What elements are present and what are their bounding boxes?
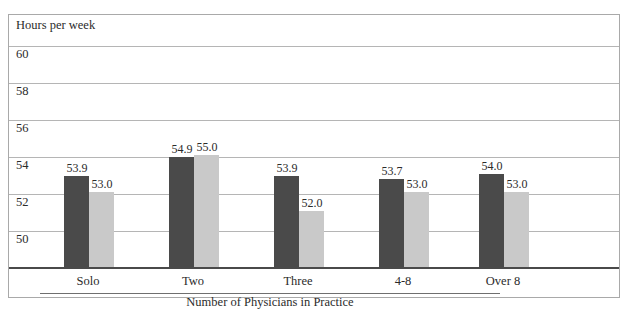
bar-solo-light[interactable]: 53.0 xyxy=(89,192,114,267)
plot-area: 53.9 53.0 54.9 55.0 53.9 52.0 53.7 xyxy=(9,15,619,297)
chart-frame: Hours per week 60 58 56 54 52 50 53.9 53… xyxy=(8,14,620,298)
bar-value-solo-light: 53.0 xyxy=(82,177,122,191)
category-label-solo: Solo xyxy=(43,274,133,289)
bar-three-light[interactable]: 52.0 xyxy=(299,211,324,267)
bar-four8-light[interactable]: 53.0 xyxy=(404,192,429,267)
bar-value-four8-dark: 53.7 xyxy=(372,164,412,178)
bar-value-over8-dark: 54.0 xyxy=(472,159,512,173)
bar-value-three-dark: 53.9 xyxy=(267,161,307,175)
bar-two-dark[interactable]: 54.9 xyxy=(169,157,194,267)
bar-four8-dark[interactable]: 53.7 xyxy=(379,179,404,267)
bar-value-two-light: 55.0 xyxy=(187,140,227,154)
category-label-over-eight: Over 8 xyxy=(458,274,548,289)
x-axis-title: Number of Physicians in Practice xyxy=(40,295,500,310)
bar-over8-light[interactable]: 53.0 xyxy=(504,192,529,267)
bar-value-four8-light: 53.0 xyxy=(397,177,437,191)
bar-value-three-light: 52.0 xyxy=(292,196,332,210)
bar-two-light[interactable]: 55.0 xyxy=(194,155,219,267)
category-label-three: Three xyxy=(253,274,343,289)
bar-value-solo-dark: 53.9 xyxy=(57,161,97,175)
category-axis: Solo Two Three 4-8 Over 8 Number of Phys… xyxy=(0,274,632,320)
bar-value-over8-light: 53.0 xyxy=(497,177,537,191)
x-axis-rule xyxy=(40,293,500,294)
bar-three-dark[interactable]: 53.9 xyxy=(274,176,299,267)
category-label-four-to-eight: 4-8 xyxy=(358,274,448,289)
category-label-two: Two xyxy=(148,274,238,289)
